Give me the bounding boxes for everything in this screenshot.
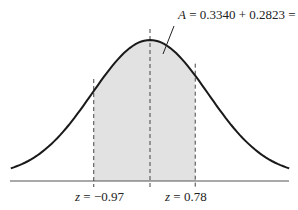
area-annotation: A = 0.3340 + 0.2823 = 0.6163 [177,7,298,22]
normal-curve-chart: A = 0.3340 + 0.2823 = 0.6163 z = −0.97 z… [0,0,298,210]
area-equation: = 0.3340 + 0.2823 = 0.6163 [186,7,298,22]
area-var: A [177,7,186,22]
z-upper-label: z = 0.78 [164,189,207,204]
z-upper-value: = 0.78 [170,189,207,204]
z-lower-label: z = −0.97 [74,189,124,204]
z-lower-value: = −0.97 [80,189,124,204]
shaded-area [94,40,196,181]
